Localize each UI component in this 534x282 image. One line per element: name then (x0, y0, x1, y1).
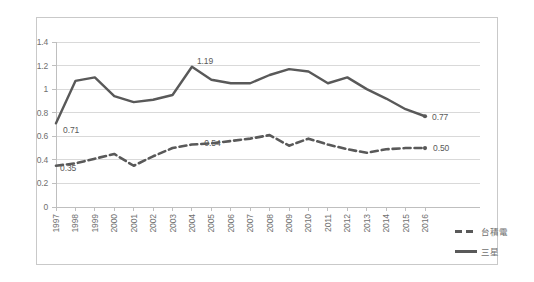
y-axis-tick-label: 1 (22, 84, 48, 94)
y-axis-tick-label: 0.6 (22, 131, 48, 141)
x-axis-tick-label: 2007 (245, 214, 255, 233)
x-axis-tick-label: 2002 (148, 214, 158, 233)
x-axis-tick-label: 2003 (168, 214, 178, 233)
legend-label-samsung: 三星 (481, 245, 499, 257)
data-point-label: 0.50 (433, 143, 449, 153)
x-axis-tick-label: 2000 (109, 214, 119, 233)
data-point-label: 0.71 (63, 125, 79, 135)
legend-item-tsmc[interactable]: 台積電 (455, 225, 508, 237)
x-axis-tick-label: 2011 (323, 214, 333, 232)
y-axis-tick-label: 0 (22, 202, 48, 212)
legend-swatch-solid-icon (455, 250, 477, 253)
x-axis-tick-label: 1997 (51, 214, 61, 233)
legend-swatch-dashed-icon (455, 230, 477, 233)
data-point-label: 0.77 (432, 112, 448, 122)
x-axis-tick-label: 2008 (265, 214, 275, 233)
x-axis-tick-label: 2009 (284, 214, 294, 233)
data-point-label: 1.19 (197, 56, 213, 66)
x-axis-tick-label: 1998 (70, 214, 80, 233)
y-axis-tick-label: 1.2 (22, 61, 48, 71)
legend-item-samsung[interactable]: 三星 (455, 245, 499, 257)
x-axis-tick-label: 2005 (206, 214, 216, 233)
x-axis-tick-label: 2010 (303, 214, 313, 233)
x-axis-tick-label: 2013 (362, 214, 372, 233)
x-axis-tick-label: 1999 (90, 214, 100, 233)
y-axis-tick-label: 1.4 (22, 37, 48, 47)
y-axis-tick-label: 0.8 (22, 108, 48, 118)
data-point-label: 0.35 (60, 163, 76, 173)
x-axis-tick-label: 2015 (401, 214, 411, 233)
x-axis-tick-label: 2016 (420, 214, 430, 233)
x-axis-tick-label: 2014 (381, 214, 391, 233)
x-axis-tick-label: 2001 (129, 214, 139, 233)
y-axis-tick-label: 0.4 (22, 155, 48, 165)
x-axis-tick-label: 2004 (187, 214, 197, 233)
x-axis-tick-label: 2012 (342, 214, 352, 233)
legend-label-tsmc: 台積電 (481, 225, 508, 237)
data-point-label: 0.54 (204, 138, 220, 148)
y-axis-tick-label: 0.2 (22, 178, 48, 188)
x-axis-tick-label: 2006 (226, 214, 236, 233)
